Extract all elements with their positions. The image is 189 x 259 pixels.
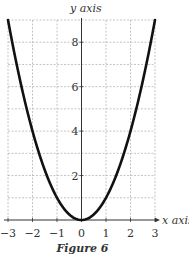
svg-text:−3: −3 bbox=[0, 227, 16, 240]
svg-text:−1: −1 bbox=[49, 227, 65, 240]
svg-text:0: 0 bbox=[78, 227, 85, 240]
svg-text:2: 2 bbox=[72, 170, 79, 183]
figure-caption: Figure 6 bbox=[0, 242, 165, 255]
axes bbox=[4, 18, 160, 222]
y-axis-label: y axis bbox=[69, 2, 102, 15]
y-tick-labels: 2468 bbox=[72, 36, 79, 182]
svg-text:1: 1 bbox=[103, 227, 110, 240]
x-tick-labels: −3−2−10123 bbox=[0, 227, 159, 240]
svg-text:6: 6 bbox=[72, 81, 79, 94]
svg-text:8: 8 bbox=[72, 36, 79, 49]
parabola-chart: −3−2−10123 2468 x axis y axis bbox=[0, 0, 189, 240]
x-axis-label: x axis bbox=[162, 214, 189, 227]
svg-text:2: 2 bbox=[127, 227, 134, 240]
svg-text:4: 4 bbox=[72, 125, 79, 138]
svg-text:−2: −2 bbox=[24, 227, 40, 240]
svg-text:3: 3 bbox=[152, 227, 159, 240]
